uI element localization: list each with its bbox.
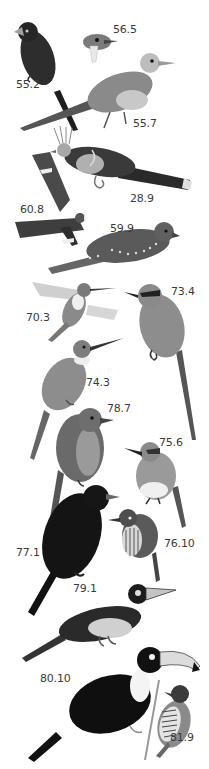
species-label-78-7: 78.7 [107, 402, 131, 415]
species-label-76-10: 76.10 [164, 537, 195, 550]
species-label-77-1: 77.1 [16, 546, 40, 559]
species-label-28-9: 28.9 [130, 192, 154, 205]
species-label-70-3: 70.3 [26, 311, 50, 324]
bird-81-9-illustration [144, 680, 196, 760]
species-label-56-5: 56.5 [113, 23, 137, 36]
species-label-55-7: 55.7 [133, 117, 157, 130]
species-label-55-2: 55.2 [16, 78, 40, 91]
species-label-81-9: 81.9 [170, 731, 194, 744]
bird-28-9-illustration [50, 126, 192, 190]
species-label-60-8: 60.8 [20, 203, 44, 216]
species-label-79-1: 79.1 [73, 582, 97, 595]
bird-56-5-illustration [83, 34, 118, 62]
bird-77-1-illustration [28, 485, 120, 616]
bird-76-10-illustration [108, 509, 160, 582]
bird-73-4-illustration [124, 284, 196, 440]
species-label-59-9: 59.9 [110, 222, 134, 235]
species-label-73-4: 73.4 [171, 285, 195, 298]
species-label-80-10: 80.10 [40, 672, 71, 685]
bird-plate: 55.2 56.5 55.7 28.9 60.8 59.9 70.3 73.4 … [0, 0, 209, 769]
species-label-74-3: 74.3 [86, 376, 110, 389]
species-label-75-6: 75.6 [159, 436, 183, 449]
